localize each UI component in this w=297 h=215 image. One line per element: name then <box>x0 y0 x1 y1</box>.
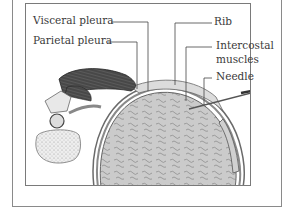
label-intercostal-muscles-line1: Intercostal <box>216 40 274 51</box>
spinal-canal <box>50 114 64 128</box>
diagram-panel <box>25 3 251 186</box>
leader-rib <box>175 23 212 85</box>
label-parietal-pleura: Parietal pleura <box>33 35 112 46</box>
thorax-illustration <box>26 4 251 186</box>
label-needle: Needle <box>216 71 254 82</box>
label-intercostal-muscles-line2: muscles <box>216 54 259 65</box>
vertebra-spinous <box>45 91 71 113</box>
vertebral-body <box>36 130 81 163</box>
label-visceral-pleura: Visceral pleura <box>33 15 114 26</box>
label-rib: Rib <box>214 16 232 27</box>
